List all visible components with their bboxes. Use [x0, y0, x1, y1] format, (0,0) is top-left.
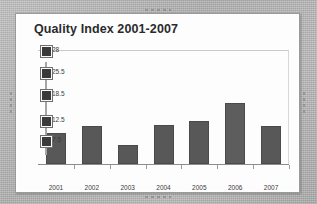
x-tick [181, 165, 182, 169]
x-axis-label-2001: 2001 [36, 184, 76, 191]
x-tick [253, 165, 254, 169]
x-axis-label-2007: 2007 [251, 184, 291, 191]
bar-2005[interactable] [189, 121, 209, 164]
bar-2003[interactable] [118, 145, 138, 164]
x-tick [217, 165, 218, 169]
bar-2004[interactable] [154, 125, 174, 164]
x-axis-label-2002: 2002 [72, 184, 112, 191]
x-tick [146, 165, 147, 169]
x-tick [110, 165, 111, 169]
chart-object-frame[interactable]: Quality Index 2001-2007 2001200220032004… [15, 13, 300, 193]
guide-mark-right [303, 92, 305, 114]
bar-2007[interactable] [261, 126, 281, 164]
x-tick [74, 165, 75, 169]
selection-handle[interactable] [41, 90, 52, 101]
plot-area[interactable] [38, 50, 289, 165]
x-axis-label-2004: 2004 [144, 184, 184, 191]
guide-mark-left [10, 92, 12, 114]
selection-handle[interactable] [41, 46, 52, 57]
selection-handle[interactable] [41, 68, 52, 79]
x-axis-label-2003: 2003 [108, 184, 148, 191]
x-tick [289, 165, 290, 169]
x-axis-line [38, 164, 289, 165]
selection-handle[interactable] [41, 116, 52, 127]
chart-canvas[interactable]: Quality Index 2001-2007 2001200220032004… [16, 14, 299, 192]
y-axis-label-28: 28 [52, 46, 59, 53]
guide-mark-bottom [145, 196, 171, 198]
y-axis-label-18.5: 18.5 [52, 90, 65, 97]
x-axis-label-2006: 2006 [215, 184, 255, 191]
bar-2006[interactable] [225, 103, 245, 164]
selection-handle[interactable] [41, 136, 52, 147]
y-axis-label-7.5: 7.5 [52, 136, 61, 143]
y-axis-label-12.5: 12.5 [52, 116, 65, 123]
guide-mark-top [145, 9, 171, 11]
y-axis-label-25.5: 25.5 [52, 68, 65, 75]
chart-title: Quality Index 2001-2007 [34, 22, 178, 36]
x-axis-label-2005: 2005 [179, 184, 219, 191]
bar-2002[interactable] [82, 126, 102, 164]
